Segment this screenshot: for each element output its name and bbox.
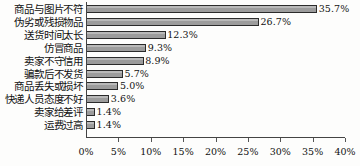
category-label: 卖家不守信用 bbox=[24, 55, 83, 66]
bar bbox=[86, 82, 118, 90]
bar-row: 仿冒商品9.3% bbox=[0, 42, 360, 55]
x-tick-label: 25% bbox=[237, 146, 258, 157]
category-label: 骗款后不发货 bbox=[24, 68, 83, 79]
category-label: 卖家给差评 bbox=[34, 107, 83, 118]
x-tick-mark bbox=[313, 138, 314, 142]
bar-value-label: 5.0% bbox=[120, 81, 145, 91]
bar-row: 卖家不守信用8.9% bbox=[0, 54, 360, 67]
bar-value-label: 1.4% bbox=[97, 120, 122, 130]
bar-row: 快递人员态度不好3.6% bbox=[0, 93, 360, 106]
bar-row: 伪劣或残损物品26.7% bbox=[0, 16, 360, 29]
x-tick-mark bbox=[280, 138, 281, 142]
y-axis-line bbox=[86, 2, 87, 137]
category-label: 快递人员态度不好 bbox=[5, 94, 83, 105]
category-label: 商品丢失或损坏 bbox=[14, 81, 83, 92]
bar-row: 商品与图片不符35.7% bbox=[0, 3, 360, 16]
x-tick-label: 15% bbox=[173, 146, 194, 157]
x-tick-mark bbox=[183, 138, 184, 142]
bar-value-label: 26.7% bbox=[260, 17, 291, 27]
category-label: 运费过高 bbox=[44, 119, 83, 130]
category-label: 伪劣或残损物品 bbox=[14, 17, 83, 28]
bar-row: 运费过高1.4% bbox=[0, 119, 360, 132]
bar bbox=[86, 108, 95, 116]
x-tick-label: 40% bbox=[334, 146, 355, 157]
bar-row: 骗款后不发货5.7% bbox=[0, 67, 360, 80]
x-tick-label: 10% bbox=[140, 146, 161, 157]
x-tick-mark bbox=[345, 138, 346, 142]
x-tick-label: 0% bbox=[78, 146, 93, 157]
bar-value-label: 35.7% bbox=[319, 4, 350, 14]
bar-chart: 商品与图片不符35.7%伪劣或残损物品26.7%送货时间太长12.3%仿冒商品9… bbox=[0, 0, 360, 166]
chart-plot-area: 商品与图片不符35.7%伪劣或残损物品26.7%送货时间太长12.3%仿冒商品9… bbox=[0, 0, 360, 137]
bar bbox=[86, 31, 166, 39]
category-label: 商品与图片不符 bbox=[14, 4, 83, 15]
x-tick-label: 35% bbox=[302, 146, 323, 157]
x-tick-label: 20% bbox=[205, 146, 226, 157]
x-tick-mark bbox=[151, 138, 152, 142]
bar-value-label: 8.9% bbox=[145, 56, 170, 66]
bar bbox=[86, 44, 146, 52]
bar bbox=[86, 95, 109, 103]
bar bbox=[86, 57, 144, 65]
x-tick-label: 5% bbox=[111, 146, 126, 157]
x-tick-mark bbox=[248, 138, 249, 142]
x-tick-mark bbox=[216, 138, 217, 142]
bar-row: 送货时间太长12.3% bbox=[0, 29, 360, 42]
bar bbox=[86, 121, 95, 129]
bar-value-label: 1.4% bbox=[97, 107, 122, 117]
x-tick-mark bbox=[118, 138, 119, 142]
bar-value-label: 12.3% bbox=[167, 30, 198, 40]
bar-row: 卖家给差评1.4% bbox=[0, 106, 360, 119]
category-label: 仿冒商品 bbox=[44, 42, 83, 53]
x-tick-label: 30% bbox=[270, 146, 291, 157]
bar-value-label: 3.6% bbox=[111, 94, 136, 104]
bar bbox=[86, 5, 317, 13]
bar bbox=[86, 18, 259, 26]
bar-value-label: 9.3% bbox=[148, 43, 173, 53]
bar-row: 商品丢失或损坏5.0% bbox=[0, 80, 360, 93]
bar bbox=[86, 70, 123, 78]
bar-value-label: 5.7% bbox=[124, 69, 149, 79]
category-label: 送货时间太长 bbox=[24, 29, 83, 40]
